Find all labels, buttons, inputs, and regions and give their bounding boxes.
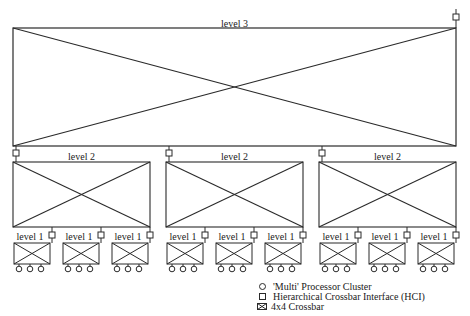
level2-crossbar-2 (166, 162, 303, 227)
square-icon (259, 293, 266, 300)
processor-cluster-icon (442, 266, 448, 272)
level1-crossbar (216, 243, 252, 264)
processor-cluster-icon (125, 266, 131, 272)
level2-crossbar-3 (319, 162, 456, 227)
processor-cluster-icon (420, 266, 426, 272)
processor-cluster-icon (371, 266, 377, 272)
processor-cluster-icon (431, 266, 437, 272)
processor-cluster-icon (382, 266, 388, 272)
level1-crossbar (112, 243, 148, 264)
processor-cluster-icon (229, 266, 235, 272)
hci-icon (319, 150, 325, 156)
hci-icon (355, 232, 361, 238)
hci-icon (453, 232, 459, 238)
processor-cluster-icon (180, 266, 186, 272)
hci-icon (202, 232, 208, 238)
hci-icon (166, 150, 172, 156)
level1-label: level 1 (268, 231, 295, 242)
hci-icon (453, 14, 459, 20)
level1-crossbar (418, 243, 454, 264)
level1-label: level 1 (170, 231, 197, 242)
level1-crossbar (63, 243, 99, 264)
legend-label: 4x4 Crossbar (271, 301, 324, 312)
level1-crossbar (265, 243, 301, 264)
level1-label: level 1 (323, 231, 350, 242)
processor-cluster-icon (136, 266, 142, 272)
level2-label: level 2 (374, 151, 401, 162)
level1-label: level 1 (372, 231, 399, 242)
processor-cluster-icon (393, 266, 399, 272)
hci-icon (147, 232, 153, 238)
processor-cluster-icon (65, 266, 71, 272)
hci-icon (13, 150, 19, 156)
level1-crossbar (320, 243, 356, 264)
processor-cluster-icon (87, 266, 93, 272)
hci-icon (251, 232, 257, 238)
processor-cluster-icon (289, 266, 295, 272)
hci-icon (98, 232, 104, 238)
level1-crossbar (369, 243, 405, 264)
processor-cluster-icon (114, 266, 120, 272)
level2-crossbar-1 (13, 162, 150, 227)
processor-cluster-icon (76, 266, 82, 272)
processor-cluster-icon (240, 266, 246, 272)
processor-cluster-icon (322, 266, 328, 272)
level3-label: level 3 (221, 18, 248, 29)
legend-item-crossbar: 4x4 Crossbar (256, 301, 324, 312)
level1-crossbar (167, 243, 203, 264)
circle-icon (259, 283, 266, 290)
processor-cluster-icon (169, 266, 175, 272)
level1-crossbar (14, 243, 50, 264)
level1-label: level 1 (17, 231, 44, 242)
processor-cluster-icon (344, 266, 350, 272)
level1-label: level 1 (66, 231, 93, 242)
processor-cluster-icon (267, 266, 273, 272)
processor-cluster-icon (38, 266, 44, 272)
hci-icon (404, 232, 410, 238)
level1-label: level 1 (219, 231, 246, 242)
processor-cluster-icon (218, 266, 224, 272)
level1-label: level 1 (115, 231, 142, 242)
crossbar-icon (257, 303, 267, 310)
hierarchical-crossbar-diagram: level 3level 2level 1level 1level 1level… (0, 0, 470, 316)
level2-label: level 2 (68, 151, 95, 162)
processor-cluster-icon (16, 266, 22, 272)
processor-cluster-icon (27, 266, 33, 272)
processor-cluster-icon (191, 266, 197, 272)
level2-label: level 2 (221, 151, 248, 162)
level3-crossbar (13, 28, 456, 146)
processor-cluster-icon (278, 266, 284, 272)
hci-icon (49, 232, 55, 238)
hci-icon (300, 232, 306, 238)
level1-label: level 1 (421, 231, 448, 242)
processor-cluster-icon (333, 266, 339, 272)
